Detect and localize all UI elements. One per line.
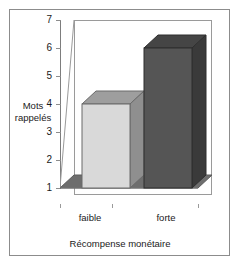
y-tick-label-7-wrap: 7 bbox=[34, 15, 52, 25]
bar-forte-3d bbox=[144, 20, 206, 208]
x-axis-title: Récompense monétaire bbox=[30, 238, 210, 249]
y-tick-label-7: 7 bbox=[36, 15, 52, 25]
y-tick-label-4: 4 bbox=[36, 99, 52, 109]
chart-figure: Mots rappelés 7 6 5 4 3 2 1 bbox=[0, 0, 241, 267]
y-tick-label-6-wrap: 6 bbox=[34, 43, 52, 53]
x-category-label-forte: forte bbox=[136, 212, 196, 223]
y-tick-label-5: 5 bbox=[36, 71, 52, 81]
bar-faible-3d bbox=[82, 20, 144, 208]
y-tick-label-6: 6 bbox=[36, 43, 52, 53]
y-tick-label-5-wrap: 5 bbox=[34, 71, 52, 81]
y-tick-label-1: 1 bbox=[36, 183, 52, 193]
y-tick-label-2: 2 bbox=[36, 155, 52, 165]
y-tick-label-4-wrap: 4 bbox=[34, 99, 52, 109]
y-tick-label-1-wrap: 1 bbox=[34, 183, 52, 193]
x-tick-mark bbox=[198, 204, 199, 208]
y-axis-title-line2: rappelés bbox=[8, 112, 58, 124]
x-category-label-faible: faible bbox=[60, 212, 120, 223]
x-tick-mark bbox=[60, 204, 61, 208]
plot-area bbox=[60, 20, 212, 208]
bar-forte bbox=[144, 20, 192, 208]
y-tick-label-3-wrap: 3 bbox=[34, 127, 52, 137]
x-tick-mark bbox=[112, 204, 113, 208]
y-tick-label-2-wrap: 2 bbox=[34, 155, 52, 165]
y-tick-label-3: 3 bbox=[36, 127, 52, 137]
bar-faible bbox=[82, 20, 130, 208]
